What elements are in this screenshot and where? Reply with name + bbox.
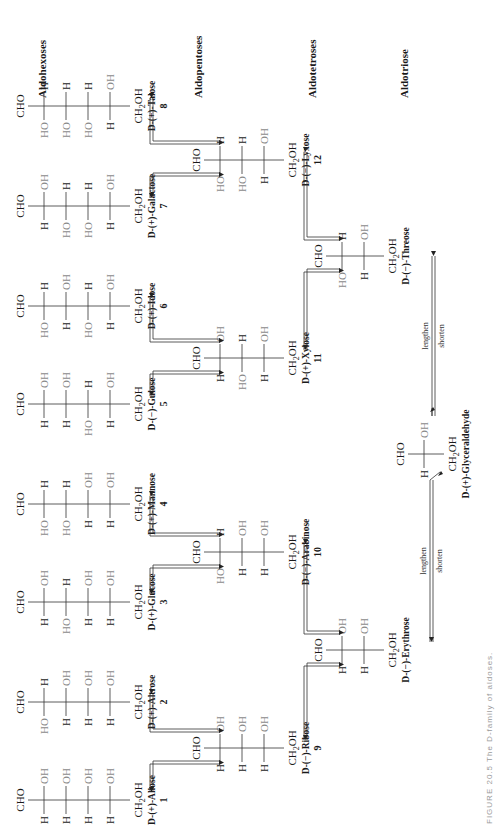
- right-substituent: H: [82, 82, 94, 90]
- left-substituent: HO: [82, 222, 94, 238]
- hydroxymethyl-group: CH2OH: [286, 730, 301, 765]
- derivation-arrow: [149, 760, 224, 792]
- molecule-number: 11: [312, 353, 323, 362]
- left-substituent: HO: [38, 520, 50, 536]
- left-substituent: H: [418, 470, 430, 478]
- right-substituent: H: [60, 578, 72, 586]
- right-substituent: H: [236, 136, 248, 144]
- right-substituent: OH: [358, 224, 370, 240]
- molecule-name: D-(+)-Glyceraldehyde: [461, 410, 472, 499]
- aldehyde-group: CHO: [312, 244, 324, 267]
- left-substituent: H: [104, 816, 116, 824]
- lengthen-label: lengthen: [421, 322, 430, 350]
- left-substituent: H: [104, 718, 116, 726]
- right-substituent: OH: [258, 716, 270, 732]
- right-substituent: OH: [258, 326, 270, 342]
- lengthen-shorten-arrow: lengthenshorten: [421, 251, 446, 416]
- right-substituent: OH: [358, 618, 370, 634]
- left-substituent: HO: [60, 222, 72, 238]
- hydroxymethyl-group: CH2OH: [132, 782, 147, 817]
- molecule-name: D-(−)-Erythrose: [401, 617, 412, 682]
- derivation-arrow: [149, 564, 224, 594]
- right-substituent: H: [38, 282, 50, 290]
- right-substituent: H: [60, 182, 72, 190]
- right-substituent: OH: [38, 174, 50, 190]
- shorten-label: shorten: [435, 549, 444, 573]
- aldehyde-group: CHO: [14, 590, 26, 613]
- right-substituent: H: [38, 480, 50, 488]
- molecule-dmannose: CHOHOHHOHHOHHOHCH2OHD-(+)-Mannose4: [14, 472, 169, 536]
- right-substituent: OH: [236, 520, 248, 536]
- right-substituent: OH: [258, 520, 270, 536]
- right-substituent: H: [82, 182, 94, 190]
- derivation-arrow: [149, 293, 224, 343]
- left-substituent: H: [258, 374, 270, 382]
- hydroxymethyl-group: CH2OH: [132, 386, 147, 421]
- right-substituent: OH: [104, 372, 116, 388]
- molecule-name: D-(−)-Gulose: [147, 378, 158, 431]
- left-substituent: HO: [82, 322, 94, 338]
- molecule-number: 12: [312, 155, 323, 165]
- left-substituent: HO: [60, 618, 72, 634]
- right-substituent: H: [38, 678, 50, 686]
- molecule-name: D-(+)-Talose: [147, 81, 158, 131]
- right-substituent: OH: [82, 570, 94, 586]
- left-substituent: HO: [82, 420, 94, 436]
- lengthen-label: lengthen: [419, 547, 428, 575]
- left-substituent: HO: [38, 122, 50, 138]
- molecule-didose: CHOHOHHOHHOHHOHCH2OHD-(+)-Idose6: [14, 274, 169, 338]
- molecule-dgulose: CHOHOHHOHHOHHOHCH2OHD-(−)-Gulose5: [14, 372, 169, 436]
- right-substituent: OH: [104, 670, 116, 686]
- left-substituent: H: [82, 618, 94, 626]
- right-substituent: OH: [104, 174, 116, 190]
- right-substituent: H: [82, 380, 94, 388]
- molecule-name: D-(+)-Idose: [147, 283, 158, 330]
- left-substituent: HO: [236, 374, 248, 390]
- aldehyde-group: CHO: [14, 690, 26, 713]
- hydroxymethyl-group: CH2OH: [386, 632, 401, 667]
- left-substituent: HO: [82, 122, 94, 138]
- left-substituent: H: [104, 322, 116, 330]
- left-substituent: H: [38, 420, 50, 428]
- molecule-daltrose: CHOHOHHOHHOHHOHCH2OHD-(+)-Altrose2: [14, 670, 169, 734]
- right-substituent: OH: [60, 670, 72, 686]
- left-substituent: H: [82, 520, 94, 528]
- right-substituent: H: [38, 82, 50, 90]
- derivation-arrow: [149, 491, 224, 537]
- right-substituent: OH: [60, 768, 72, 784]
- left-substituent: HO: [214, 568, 226, 584]
- derivation-arrow: [149, 370, 224, 396]
- molecule-number: 9: [312, 746, 323, 751]
- left-substituent: HO: [38, 718, 50, 734]
- left-substituent: H: [60, 718, 72, 726]
- aldose-family-tree: Aldohexoses Aldopentoses Aldotetroses Al…: [0, 0, 502, 836]
- aldehyde-group: CHO: [14, 788, 26, 811]
- left-substituent: H: [60, 816, 72, 824]
- molecule-derythrose: CHOHOHHOHCH2OHD-(−)-Erythrose: [312, 617, 412, 682]
- left-substituent: H: [60, 420, 72, 428]
- molecule-name: D-(−)-Arabinose: [301, 519, 312, 586]
- aldehyde-group: CHO: [14, 294, 26, 317]
- figure-caption: FIGURE 20.5 The D-family of aldoses.: [485, 652, 494, 824]
- molecule-number: 10: [312, 547, 323, 557]
- molecule-dlyxose: CHOHOHHOHHOHCH2OHD-(−)-Lyxose12: [190, 128, 323, 192]
- left-substituent: H: [214, 374, 226, 382]
- left-substituent: H: [258, 176, 270, 184]
- molecule-number: 3: [158, 600, 169, 605]
- right-substituent: H: [60, 82, 72, 90]
- aldehyde-group: CHO: [190, 540, 202, 563]
- molecule-number: 1: [158, 798, 169, 803]
- aldehyde-group: CHO: [14, 94, 26, 117]
- molecule-darabinose: CHOHOHHOHHOHCH2OHD-(−)-Arabinose10: [190, 519, 323, 586]
- right-substituent: OH: [104, 472, 116, 488]
- left-substituent: H: [38, 222, 50, 230]
- left-substituent: H: [104, 520, 116, 528]
- derivation-arrow: [149, 93, 224, 145]
- left-substituent: H: [60, 322, 72, 330]
- molecule-name: D-(+)-Glucose: [147, 573, 158, 630]
- hydroxymethyl-group: CH2OH: [286, 340, 301, 375]
- aldehyde-group: CHO: [312, 638, 324, 661]
- molecule-name: D-(+)-Galactose: [147, 174, 158, 239]
- molecule-number: 6: [158, 304, 169, 309]
- aldehyde-group: CHO: [190, 736, 202, 759]
